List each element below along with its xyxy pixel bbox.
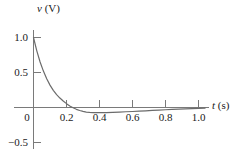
x-tick-label-1-0: 1.0 [189,112,208,123]
x-axis-unit: (s) [218,99,230,111]
y-axis-unit: (V) [45,2,60,14]
plot-canvas [0,0,240,153]
y-tick-label-0-5: 0.5 [0,67,28,78]
y-axis-variable: v [37,2,42,14]
x-tick-label-0-8: 0.8 [156,112,175,123]
y-tick-label-1: 1.0 [0,32,28,43]
x-tick-label-0-2: 0.2 [57,112,76,123]
x-axis-variable: t [212,99,215,111]
y-tick-label-neg-0-5: −0.5 [0,137,28,148]
y-axis-label: v (V) [37,3,60,14]
figure-container: v (V) t (s) 1.0 0.5 −0.5 0 0.2 0.4 0.6 0… [0,0,240,153]
x-axis-ticks [67,100,199,108]
x-axis-label: t (s) [212,100,229,111]
data-curve [34,38,206,113]
origin-tick-label: 0 [22,112,32,123]
x-tick-label-0-6: 0.6 [123,112,142,123]
x-tick-label-0-4: 0.4 [90,112,109,123]
